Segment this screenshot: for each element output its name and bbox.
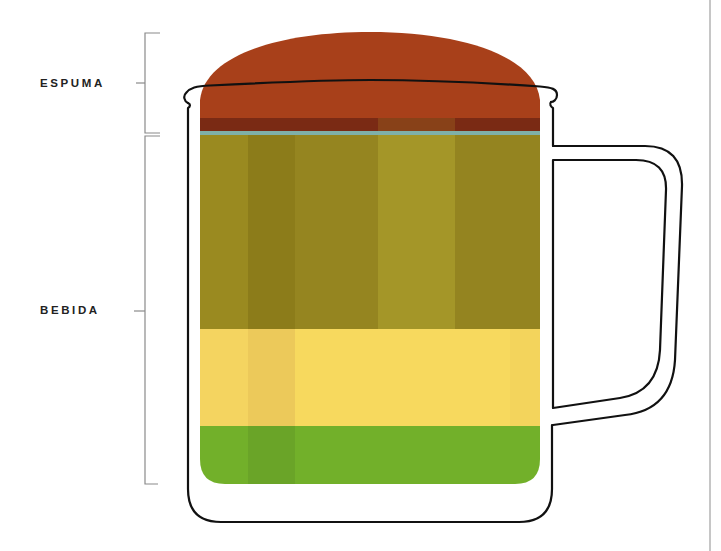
drink-label: BEBIDA <box>40 304 100 316</box>
separator-line <box>200 131 540 135</box>
yellow-drink-layer <box>200 329 540 427</box>
foam-layer <box>200 32 540 118</box>
foam-label: ESPUMA <box>40 77 105 89</box>
foam-bottom-band <box>200 118 540 132</box>
olive-drink-layer <box>200 135 540 330</box>
foam-bracket <box>136 33 160 133</box>
drink-bracket <box>134 136 160 484</box>
green-drink-layer <box>200 426 540 486</box>
mug-diagram <box>0 0 721 551</box>
